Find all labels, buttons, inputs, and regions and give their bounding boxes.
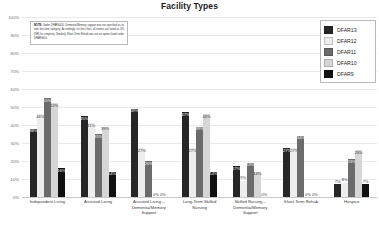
bar-slot: 19%: [247, 17, 254, 197]
bar-slot: 27%: [283, 17, 290, 197]
bar-value-label: 7%: [363, 180, 369, 185]
bar-slot: 47%: [182, 17, 189, 197]
bar[interactable]: 38%: [30, 129, 37, 197]
y-axis-tick: 0%: [13, 195, 19, 200]
bar[interactable]: 8%: [341, 183, 348, 197]
bar-value-label: 0%: [305, 193, 311, 198]
note-box: NOTE: Under DFAR9&10, Dementia/Memory su…: [30, 21, 128, 45]
legend-item[interactable]: DFAR13: [324, 24, 373, 35]
bar-value-label: 9%: [240, 176, 246, 181]
y-axis-tick: 10%: [11, 177, 19, 182]
legend-item[interactable]: DFAR11: [324, 46, 373, 57]
bar-slot: 27%: [138, 17, 145, 197]
bar-slot: 9%: [240, 17, 247, 197]
x-axis-category-label: Hospice: [326, 199, 377, 225]
bar-slot: 0%: [152, 17, 159, 197]
y-axis-tick: 90%: [11, 33, 19, 38]
legend-item[interactable]: DFAR9: [324, 68, 373, 79]
chart-title: Facility Types: [0, 1, 379, 11]
y-axis-tick: 100%: [8, 15, 19, 20]
bar[interactable]: 35%: [95, 134, 102, 197]
y-axis-tick: 30%: [11, 141, 19, 146]
bar[interactable]: 7%: [334, 184, 341, 197]
bar[interactable]: 14%: [254, 172, 261, 197]
legend-item[interactable]: DFAR10: [324, 57, 373, 68]
bar[interactable]: 55%: [44, 98, 51, 197]
legend-swatch: [324, 48, 333, 56]
bar[interactable]: 19%: [247, 163, 254, 197]
bar[interactable]: 9%: [240, 181, 247, 197]
legend-swatch: [324, 70, 333, 78]
bar-slot: 27%: [290, 17, 297, 197]
x-axis-category-label: Assisted Living: [73, 199, 124, 225]
legend-swatch: [324, 59, 333, 67]
y-axis-tick: 70%: [11, 69, 19, 74]
bar-slot: 49%: [131, 17, 138, 197]
note-body: Under DFAR9&10, Dementia/Memory support …: [34, 24, 124, 40]
bar-slot: 0%: [261, 17, 268, 197]
bar[interactable]: 20%: [145, 161, 152, 197]
bar-slot: 20%: [145, 17, 152, 197]
bar[interactable]: 21%: [348, 159, 355, 197]
note-label: NOTE:: [34, 24, 42, 27]
legend-swatch: [324, 26, 333, 34]
bar[interactable]: 27%: [283, 148, 290, 197]
bar-slot: 27%: [189, 17, 196, 197]
bar[interactable]: 26%: [355, 150, 362, 197]
chart-root: Facility Types 100%90%80%70%60%50%40%30%…: [0, 0, 379, 231]
x-axis-category-label: Skilled Nursing – Dementia/Memory Suppor…: [225, 199, 276, 225]
legend-label: DFAR12: [337, 38, 357, 44]
bar-value-label: 16%: [57, 169, 65, 174]
bar[interactable]: 7%: [362, 184, 369, 197]
note-text: NOTE: Under DFAR9&10, Dementia/Memory su…: [34, 24, 124, 42]
bar[interactable]: 52%: [51, 103, 58, 197]
bar-value-label: 8%: [342, 178, 348, 183]
x-axis-category-label: Assisted Living – Dementia/Memory Suppor…: [123, 199, 174, 225]
bar-slot: 0%: [311, 17, 318, 197]
bar-value-label: 0%: [261, 193, 267, 198]
legend-label: DFAR11: [337, 49, 356, 55]
y-axis-tick: 50%: [11, 105, 19, 110]
bar[interactable]: 14%: [109, 172, 116, 197]
bar-value-label: 0%: [153, 193, 159, 198]
chart-legend: DFAR13DFAR12DFAR11DFAR10DFAR9: [320, 20, 376, 83]
bar-group: 47%27%39%46%14%: [174, 17, 225, 197]
bar-group: 27%27%34%0%0%: [276, 17, 327, 197]
bar-value-label: 14%: [210, 172, 218, 177]
legend-label: DFAR9: [337, 71, 354, 77]
bar-value-label: 0%: [312, 193, 318, 198]
bar[interactable]: 14%: [210, 172, 217, 197]
bar-slot: 34%: [297, 17, 304, 197]
bar-slot: 14%: [210, 17, 217, 197]
bar-slot: 39%: [196, 17, 203, 197]
bar-value-label: 14%: [108, 172, 116, 177]
x-axis-category-label: Long-Term Skilled Nursing: [174, 199, 225, 225]
legend-label: DFAR10: [337, 60, 357, 66]
bar[interactable]: 17%: [233, 166, 240, 197]
bar[interactable]: 27%: [189, 148, 196, 197]
bar-slot: 0%: [304, 17, 311, 197]
bar[interactable]: 47%: [182, 112, 189, 197]
bar[interactable]: 34%: [297, 136, 304, 197]
y-axis-tick: 80%: [11, 51, 19, 56]
bar[interactable]: 46%: [203, 114, 210, 197]
bar[interactable]: 27%: [138, 148, 145, 197]
bar-slot: 14%: [254, 17, 261, 197]
y-axis-tick: 20%: [11, 159, 19, 164]
bar[interactable]: 39%: [196, 127, 203, 197]
bar[interactable]: 27%: [290, 148, 297, 197]
bar-group: 17%9%19%14%0%: [225, 17, 276, 197]
bar-slot: 46%: [203, 17, 210, 197]
bar[interactable]: 39%: [102, 127, 109, 197]
legend-label: DFAR13: [337, 27, 357, 33]
bar-value-label: 0%: [160, 193, 166, 198]
x-axis-category-label: Independent Living: [22, 199, 73, 225]
bar[interactable]: 46%: [37, 114, 44, 197]
legend-item[interactable]: DFAR12: [324, 35, 373, 46]
bar-slot: 17%: [233, 17, 240, 197]
y-axis-tick: 40%: [11, 123, 19, 128]
y-axis-tick: 60%: [11, 87, 19, 92]
gridline: 0%: [22, 197, 377, 198]
bar[interactable]: 16%: [58, 168, 65, 197]
bar-group: 49%27%20%0%0%: [123, 17, 174, 197]
